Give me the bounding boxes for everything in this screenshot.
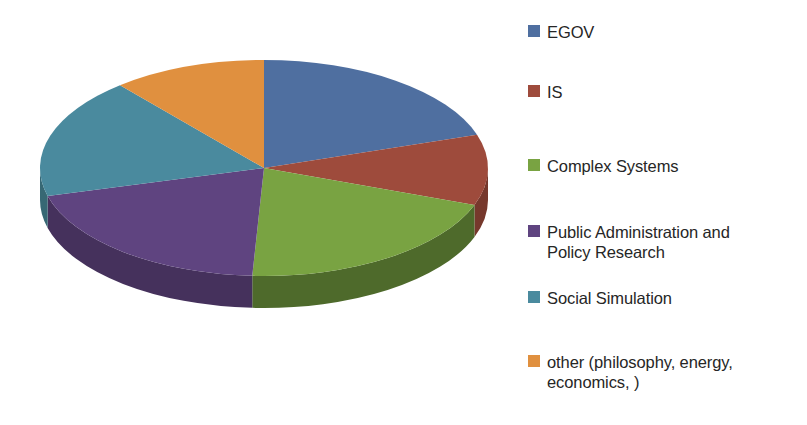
legend-item-egov[interactable]: EGOV	[528, 22, 806, 42]
pie-chart-plot-area	[0, 0, 510, 425]
legend-swatch-icon-complex-systems	[528, 159, 540, 171]
legend-label-other: other (philosophy, energy, economics, )	[547, 352, 733, 392]
legend-swatch-icon-other	[528, 355, 540, 367]
legend-item-public-administration[interactable]: Public Administration and Policy Researc…	[528, 222, 806, 262]
legend-item-other[interactable]: other (philosophy, energy, economics, )	[528, 352, 806, 392]
legend-item-complex-systems[interactable]: Complex Systems	[528, 156, 806, 176]
legend-swatch-icon-public-administration	[528, 225, 540, 237]
legend-label-public-administration: Public Administration and Policy Researc…	[547, 222, 730, 262]
legend-label-is: IS	[547, 82, 562, 102]
legend-swatch-icon-social-simulation	[528, 291, 540, 303]
legend-label-complex-systems: Complex Systems	[547, 156, 678, 176]
pie-top-face-group	[40, 60, 488, 276]
legend-label-social-simulation: Social Simulation	[547, 288, 672, 308]
legend-item-social-simulation[interactable]: Social Simulation	[528, 288, 806, 308]
legend-swatch-icon-egov	[528, 25, 540, 37]
chart-legend: EGOV IS Complex Systems Public Administr…	[522, 0, 807, 425]
legend-swatch-icon-is	[528, 85, 540, 97]
pie-chart-figure: EGOV IS Complex Systems Public Administr…	[0, 0, 807, 425]
legend-label-egov: EGOV	[547, 22, 594, 42]
legend-item-is[interactable]: IS	[528, 82, 806, 102]
pie-chart-svg	[0, 0, 510, 425]
